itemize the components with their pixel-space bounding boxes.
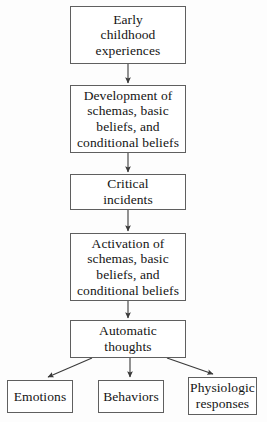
node-physiologic-responses: Physiologic responses [188,377,257,415]
node-critical-incidents: Critical incidents [70,174,186,210]
node-development-of-schemas: Development of schemas, basic beliefs, a… [70,85,186,153]
node-label: Automatic thoughts [97,323,159,354]
node-early-childhood-experiences: Early childhood experiences [70,6,186,64]
node-label: Development of schemas, basic beliefs, a… [75,88,181,150]
node-label: Emotions [12,389,69,405]
flowchart-canvas: Early childhood experiences Development … [0,0,267,422]
edge-automatic-to-emotions [48,358,92,377]
edge-automatic-to-physiologic [167,358,213,374]
node-label: Behaviors [101,389,161,405]
node-label: Critical incidents [101,176,155,207]
node-label: Activation of schemas, basic beliefs, an… [75,236,181,298]
node-label: Early childhood experiences [94,12,163,59]
node-label: Physiologic responses [188,380,257,411]
node-emotions: Emotions [7,380,73,413]
node-activation-of-schemas: Activation of schemas, basic beliefs, an… [70,233,186,301]
node-behaviors: Behaviors [98,380,164,413]
node-automatic-thoughts: Automatic thoughts [70,320,186,358]
